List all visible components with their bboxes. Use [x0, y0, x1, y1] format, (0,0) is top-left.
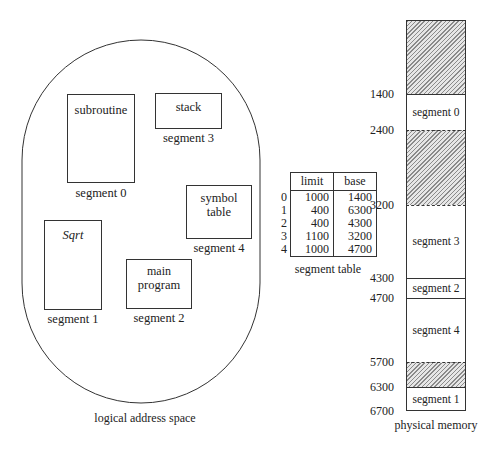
memory-block-segment-2: segment 2 [406, 278, 466, 298]
base-header: base [334, 173, 377, 191]
row-index: 4 [281, 243, 291, 257]
memory-block-segment-4: segment 4 [406, 298, 466, 362]
address-label: 6300 [370, 381, 394, 393]
subroutine-segment-box: subroutine [67, 94, 135, 183]
row-index: 0 [281, 191, 291, 205]
memory-block-segment-0: segment 0 [406, 94, 466, 130]
memory-segment-2-label: segment 2 [407, 282, 465, 294]
free-memory-block [406, 130, 466, 205]
address-label: 4300 [370, 272, 394, 284]
sqrt-label: Sqrt [45, 228, 101, 242]
symbol-table-segment-box: symbol table [186, 185, 252, 239]
memory-segment-1-label: segment 1 [407, 393, 465, 405]
table-label: table [187, 205, 251, 219]
program-label: program [127, 278, 191, 292]
address-label: 1400 [370, 88, 394, 100]
address-label: 5700 [370, 356, 394, 368]
subroutine-label: subroutine [68, 103, 134, 117]
memory-segment-4-label: segment 4 [407, 324, 465, 336]
segment-table-header: limit base [281, 173, 377, 191]
segment-4-caption: segment 4 [186, 241, 252, 255]
row-index: 3 [281, 230, 291, 243]
address-label: 2400 [370, 124, 394, 136]
table-row: 0 1000 1400 [281, 191, 377, 205]
segment-3-caption: segment 3 [155, 131, 222, 145]
free-memory-block [406, 20, 466, 94]
memory-block-segment-3: segment 3 [406, 205, 466, 278]
segment-table: limit base 0 1000 1400 1 400 6300 2 400 … [281, 172, 377, 257]
logical-address-space-caption: logical address space [60, 411, 230, 425]
limit-cell: 1000 [291, 243, 334, 257]
physical-memory-caption: physical memory [384, 418, 488, 432]
main-label: main [127, 264, 191, 278]
stack-label: stack [156, 100, 221, 114]
main-program-segment-box: main program [126, 259, 192, 309]
address-label: 4700 [370, 292, 394, 304]
segment-1-caption: segment 1 [38, 312, 108, 326]
symbol-label: symbol [187, 191, 251, 205]
limit-header: limit [291, 173, 334, 191]
segment-table-caption: segment table [285, 262, 371, 276]
address-label: 6700 [370, 405, 394, 417]
address-label: 3200 [370, 199, 394, 211]
memory-segment-3-label: segment 3 [407, 235, 465, 247]
table-row: 4 1000 4700 [281, 243, 377, 257]
free-memory-block [406, 362, 466, 387]
memory-segment-0-label: segment 0 [407, 106, 465, 118]
memory-block-segment-1: segment 1 [406, 387, 466, 411]
sqrt-segment-box: Sqrt [44, 220, 102, 310]
segment-0-caption: segment 0 [67, 186, 135, 200]
base-cell: 4700 [334, 243, 377, 257]
stack-segment-box: stack [155, 93, 222, 129]
segment-2-caption: segment 2 [122, 311, 196, 325]
limit-cell: 1000 [291, 191, 334, 205]
